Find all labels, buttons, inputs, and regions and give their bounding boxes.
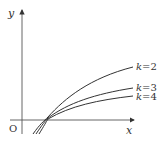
curve-label-k2: k=2: [136, 61, 157, 72]
x-axis-label: x: [126, 124, 133, 137]
curve-label-k4: k=4: [136, 91, 157, 102]
graph: y O x k=2 k=3 k=4: [0, 0, 167, 141]
curve-k3: [36, 88, 133, 134]
y-axis-label: y: [7, 7, 15, 20]
origin-label: O: [9, 123, 17, 134]
